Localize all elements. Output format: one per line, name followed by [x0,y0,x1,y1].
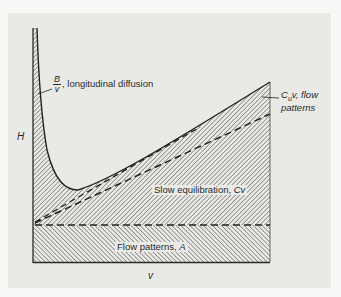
annotation-longitudinal-diffusion: B v , longitudinal diffusion [53,75,153,94]
y-axis-label: H [17,131,24,142]
b-over-v-fraction: B v [53,75,61,94]
van-deemter-plot [0,0,341,297]
annotation-cuv-flow-patterns: Cuv, flow patterns [281,90,318,113]
annotation-flow-patterns-a: Flow patterns, A [115,242,188,252]
annotation-slow-equilibration: Slow equilibration, Cv [152,185,247,195]
x-axis-label: v [148,270,153,281]
